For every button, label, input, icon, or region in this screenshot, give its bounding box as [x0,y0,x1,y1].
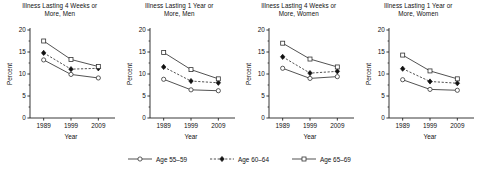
y-tick-label: 15 [138,48,146,55]
y-tick-label: 15 [258,48,266,55]
data-point-open-circle [400,78,404,82]
legend-label: Age 60–64 [238,156,269,163]
chart-panel-2: Illness Lasting 1 Year or More, Men05101… [120,0,240,145]
legend-age-65-69[interactable]: Age 65–69 [291,154,351,164]
x-tick-label: 1989 [276,122,291,129]
data-point-open-circle [335,75,339,79]
plot-area: 05101520198919992009PercentYear [120,0,240,145]
x-tick-label: 1999 [303,122,318,129]
legend-key-filled-diamond [209,154,235,164]
data-point-open-square [455,77,459,81]
x-tick-label: 1989 [395,122,410,129]
data-point-open-circle [188,88,192,92]
data-point-open-square [216,77,220,81]
x-axis-label: Year [304,133,318,140]
panel-row: Illness Lasting 4 Weeks or More, Men0510… [0,0,478,145]
data-point-open-square [96,65,100,69]
data-point-filled-diamond [335,69,339,74]
series-line-3 [44,41,99,67]
data-point-open-square [161,50,165,54]
legend-age-55-59[interactable]: Age 55–59 [127,154,187,164]
data-point-open-square [308,57,312,61]
y-tick-label: 10 [377,70,385,77]
y-tick-label: 15 [19,48,27,55]
y-tick-label: 5 [22,92,26,99]
x-tick-label: 1999 [183,122,198,129]
x-axis-label: Year [423,133,437,140]
y-tick-label: 5 [381,92,385,99]
chart-panel-1: Illness Lasting 4 Weeks or More, Men0510… [0,0,120,145]
data-point-open-square [400,53,404,57]
x-axis-label: Year [65,133,79,140]
chart-legend: Age 55–59Age 60–64Age 65–69 [0,148,478,170]
y-tick-label: 20 [138,26,146,33]
data-point-open-square [42,39,46,43]
x-tick-label: 1989 [37,122,52,129]
data-point-open-square [189,68,193,72]
data-point-open-circle [216,89,220,93]
data-point-filled-diamond [69,67,73,72]
y-tick-label: 0 [142,114,146,121]
x-tick-label: 2009 [450,122,465,129]
y-tick-label: 15 [377,48,385,55]
data-point-open-square [428,69,432,73]
data-point-filled-diamond [455,81,459,86]
y-tick-label: 20 [377,26,385,33]
x-tick-label: 2009 [330,122,345,129]
plot-area: 05101520198919992009PercentYear [0,0,120,145]
y-tick-label: 10 [19,70,27,77]
series-line-3 [163,52,218,78]
x-tick-label: 1999 [422,122,437,129]
legend-key-open-circle [127,154,153,164]
y-tick-label: 20 [258,26,266,33]
data-point-filled-diamond [41,50,45,55]
chart-panel-3: Illness Lasting 4 Weeks or More, Women05… [239,0,359,145]
data-point-open-square [281,41,285,45]
x-tick-label: 2009 [91,122,106,129]
data-point-open-circle [455,88,459,92]
x-tick-label: 1999 [64,122,79,129]
legend-age-60-64[interactable]: Age 60–64 [209,154,269,164]
data-point-filled-diamond [161,64,165,69]
data-point-open-square [302,157,306,161]
data-point-filled-diamond [308,71,312,76]
multi-panel-line-chart-figure: Illness Lasting 4 Weeks or More, Men0510… [0,0,478,173]
data-point-open-circle [281,66,285,70]
legend-label: Age 55–59 [156,156,187,163]
x-axis-label: Year [184,133,198,140]
y-axis-label: Percent [6,63,13,85]
y-tick-label: 10 [258,70,266,77]
data-point-open-square [335,65,339,69]
x-tick-label: 1989 [156,122,171,129]
y-axis-label: Percent [365,63,372,85]
y-axis-label: Percent [245,63,252,85]
data-point-open-circle [42,58,46,62]
y-tick-label: 5 [261,92,265,99]
y-tick-label: 20 [19,26,27,33]
data-point-filled-diamond [220,156,224,161]
y-tick-label: 0 [381,114,385,121]
data-point-filled-diamond [188,78,192,83]
y-tick-label: 5 [142,92,146,99]
series-line-3 [402,55,457,79]
data-point-open-circle [96,76,100,80]
data-point-open-square [69,57,73,61]
x-tick-label: 2009 [211,122,226,129]
data-point-filled-diamond [427,79,431,84]
y-tick-label: 0 [261,114,265,121]
chart-panel-4: Illness Lasting 1 Year or More, Women051… [359,0,478,145]
y-tick-label: 0 [22,114,26,121]
data-point-filled-diamond [400,66,404,71]
series-line-3 [283,43,338,67]
data-point-filled-diamond [280,54,284,59]
y-tick-label: 10 [138,70,146,77]
data-point-open-circle [138,157,142,161]
legend-key-open-square [291,154,317,164]
data-point-open-circle [308,76,312,80]
y-axis-label: Percent [126,63,133,85]
data-point-open-circle [161,77,165,81]
data-point-open-circle [69,72,73,76]
plot-area: 05101520198919992009PercentYear [239,0,359,145]
data-point-open-circle [427,87,431,91]
legend-label: Age 65–69 [320,156,351,163]
